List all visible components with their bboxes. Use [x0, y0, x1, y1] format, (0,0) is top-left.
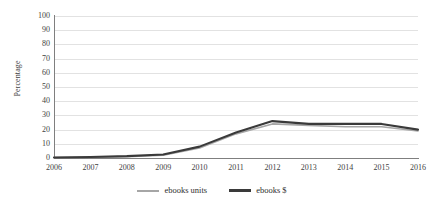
- legend-swatch-icon-units: [137, 190, 159, 192]
- legend-label-units: ebooks units: [164, 186, 207, 195]
- legend-label-dollars: ebooks $: [256, 186, 286, 195]
- legend-item-ebooks-dollars: ebooks $: [229, 186, 286, 195]
- legend-item-ebooks-units: ebooks units: [137, 186, 207, 195]
- series-line-ebooks-units: [54, 124, 418, 158]
- legend-swatch-icon-dollars: [229, 189, 251, 192]
- chart-legend: ebooks units ebooks $: [0, 186, 424, 195]
